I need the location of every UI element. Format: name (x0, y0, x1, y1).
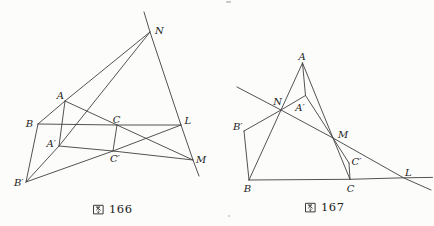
figure-166-segment-B-Bp (26, 124, 38, 182)
figure-166-axis-N-L-M (144, 12, 199, 176)
tu-character-glyph (305, 202, 316, 213)
figure-167-line-A-N-B (249, 63, 303, 180)
figure-166-line-Ap-Cp-M (59, 146, 193, 160)
figure-167-line-A-M-C (303, 63, 351, 179)
figure-166-caption-number: 166 (109, 202, 132, 216)
figure-166-point-label-A: A (56, 90, 64, 101)
figure-166-point-label-C: C (113, 114, 121, 125)
figure-166-point-label-L: L (184, 115, 192, 126)
figure-166-point-label-B-prime: B′ (13, 177, 24, 188)
figure-166-line-B-C-L (38, 124, 181, 125)
figure-166-diagram: NABCLA′C′MB′ (13, 12, 207, 188)
figure-166-point-label-N: N (154, 25, 165, 36)
figure-167-point-label-L: L (404, 167, 412, 178)
scan-speck-bottom (228, 215, 230, 217)
figure-166-point-label-B: B (25, 118, 33, 129)
figure-166-point-label-M: M (195, 154, 207, 165)
figure-166-segment-C-Cp (113, 125, 117, 151)
textbook-page: NABCLA′C′MB′ANA′B′MC′LBC 166 167 (0, 0, 434, 226)
figure-166-point-label-A-prime: A′ (46, 138, 57, 149)
figure-167-diagram: ANA′B′MC′LBC (232, 51, 433, 195)
figure-167-segment-B-Bp (244, 131, 249, 180)
figure-166-caption: 166 (93, 202, 132, 216)
figure-167-point-label-M: M (337, 129, 349, 140)
figure-166-point-label-C-prime: C′ (110, 153, 121, 164)
figure-167-caption: 167 (305, 200, 344, 214)
figure-167-axis-N-M-L (237, 87, 431, 190)
figure-167-point-label-B-prime: B′ (232, 121, 243, 132)
figure-167-point-label-C-prime: C′ (352, 156, 363, 167)
scan-speck-top (226, 1, 231, 3)
geometry-figures: NABCLA′C′MB′ANA′B′MC′LBC (0, 0, 434, 226)
figure-167-point-label-B: B (243, 183, 251, 194)
figure-166-line-B-A-N (38, 32, 150, 124)
figure-167-point-label-A: A (297, 51, 305, 62)
tu-character-glyph (93, 204, 104, 215)
figure-167-point-label-A-prime: A′ (294, 102, 305, 113)
figure-166-line-A-C-M (65, 101, 193, 160)
figure-167-point-label-N: N (272, 96, 283, 107)
figure-166-line-Bp-Cp-L (26, 125, 181, 182)
figure-167-point-label-C: C (347, 183, 355, 194)
figure-167-caption-number: 167 (321, 200, 344, 214)
